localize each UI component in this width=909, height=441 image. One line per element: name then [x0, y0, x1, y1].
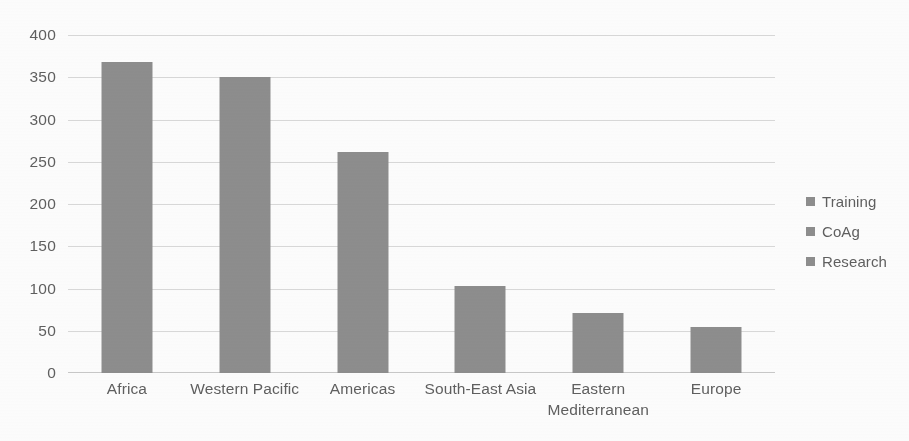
- x-axis-label-eastern-mediterranean-line1: Eastern: [539, 378, 657, 399]
- x-axis-label-europe-line1: Europe: [657, 378, 775, 399]
- x-axis-label-americas-line1: Americas: [304, 378, 422, 399]
- bar-slot-eastern-mediterranean: [539, 35, 657, 373]
- y-axis-tick-100: 100: [30, 280, 56, 298]
- x-axis-label-western-pacific: Western Pacific: [186, 378, 304, 399]
- y-axis-labels: 400 350 300 250 200 150 100 50 0: [0, 35, 56, 373]
- x-axis-label-africa: Africa: [68, 378, 186, 399]
- legend-item-coag[interactable]: CoAg: [806, 216, 906, 246]
- y-axis-tick-200: 200: [30, 195, 56, 213]
- legend-label-coag: CoAg: [822, 223, 860, 240]
- bar-slot-americas: [304, 35, 422, 373]
- bar-chart: 400 350 300 250 200 150 100 50 0: [0, 0, 909, 441]
- x-axis-label-africa-line1: Africa: [68, 378, 186, 399]
- y-axis-tick-50: 50: [38, 322, 56, 340]
- legend-label-training: Training: [822, 193, 876, 210]
- legend-swatch-icon: [806, 257, 815, 266]
- x-axis-label-western-pacific-line1: Western Pacific: [186, 378, 304, 399]
- bar-africa[interactable]: [101, 62, 152, 373]
- x-axis-label-south-east-asia: South-East Asia: [422, 378, 540, 399]
- y-axis-tick-150: 150: [30, 237, 56, 255]
- x-axis-label-americas: Americas: [304, 378, 422, 399]
- y-axis-tick-0: 0: [47, 364, 56, 382]
- bar-slot-south-east-asia: [422, 35, 540, 373]
- chart-legend: Training CoAg Research: [806, 186, 906, 276]
- plot-area: [68, 35, 775, 373]
- legend-swatch-icon: [806, 227, 815, 236]
- y-axis-tick-350: 350: [30, 68, 56, 86]
- bar-europe[interactable]: [691, 327, 742, 373]
- bar-americas[interactable]: [337, 152, 388, 373]
- x-axis-label-eastern-mediterranean: Eastern Mediterranean: [539, 378, 657, 420]
- x-axis-label-europe: Europe: [657, 378, 775, 399]
- bar-eastern-mediterranean[interactable]: [573, 313, 624, 373]
- y-axis-tick-250: 250: [30, 153, 56, 171]
- bar-series-training: [68, 35, 775, 373]
- bar-south-east-asia[interactable]: [455, 286, 506, 373]
- y-axis-tick-300: 300: [30, 111, 56, 129]
- legend-swatch-icon: [806, 197, 815, 206]
- x-axis-label-eastern-mediterranean-line2: Mediterranean: [539, 399, 657, 420]
- legend-label-research: Research: [822, 253, 887, 270]
- legend-item-research[interactable]: Research: [806, 246, 906, 276]
- y-axis-tick-400: 400: [30, 26, 56, 44]
- bar-western-pacific[interactable]: [219, 77, 270, 373]
- legend-item-training[interactable]: Training: [806, 186, 906, 216]
- bar-slot-europe: [657, 35, 775, 373]
- bar-slot-africa: [68, 35, 186, 373]
- bar-slot-western-pacific: [186, 35, 304, 373]
- x-axis-labels: Africa Western Pacific Americas South-Ea…: [68, 378, 775, 438]
- x-axis-label-south-east-asia-line1: South-East Asia: [422, 378, 540, 399]
